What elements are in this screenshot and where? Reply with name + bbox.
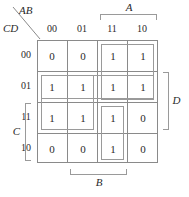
- column-header-10: 10: [127, 22, 157, 36]
- bracket-d: [163, 72, 169, 130]
- column-header-11: 11: [97, 22, 127, 36]
- cell-r00-c00: 0: [37, 41, 67, 71]
- bracket-label-a: A: [108, 1, 150, 13]
- bracket-c: [25, 103, 31, 161]
- cell-r11-c10: 0: [128, 103, 158, 133]
- bracket-label-c: C: [10, 125, 23, 137]
- cell-r00-c01: 0: [68, 41, 98, 71]
- column-header-00: 00: [37, 22, 67, 36]
- row-header-00: 00: [17, 40, 35, 70]
- column-header-01: 01: [67, 22, 97, 36]
- group-left-rows-01-11: [41, 75, 94, 130]
- row-header-01: 01: [17, 71, 35, 101]
- group-col-11-rows-11-10: [101, 106, 124, 160]
- cell-r10-c10: 0: [128, 134, 158, 164]
- bracket-label-d: D: [170, 94, 183, 106]
- bracket-b: [70, 169, 127, 175]
- cell-r10-c01: 0: [68, 134, 98, 164]
- karnaugh-map: AB CD 00 01 11 10 00 01 11 10 0 0 1 1 1 …: [0, 0, 189, 197]
- cell-r10-c00: 0: [37, 134, 67, 164]
- bracket-label-b: B: [78, 176, 120, 188]
- bracket-a: [100, 14, 157, 20]
